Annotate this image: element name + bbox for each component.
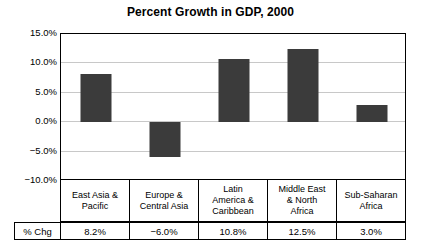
bar-slot: [199, 34, 268, 179]
data-row-label: % Chg: [15, 223, 61, 239]
bar-slot: [130, 34, 199, 179]
y-axis-tick-label: 10.0%: [1, 57, 57, 67]
category-cell: Middle East& NorthAfrica: [268, 180, 337, 221]
bar-slot: [338, 34, 407, 179]
bar: [149, 122, 180, 157]
plot-area: [60, 33, 406, 180]
y-axis-tick-label: 0.0%: [1, 116, 57, 126]
bar: [218, 59, 249, 123]
bar: [80, 74, 111, 122]
category-label: Middle East& NorthAfrica: [278, 184, 325, 217]
bar: [288, 49, 319, 123]
category-cell: Sub-SaharanAfrica: [337, 180, 405, 221]
data-value-cell: 8.2%: [61, 223, 130, 239]
gdp-growth-figure: Percent Growth in GDP, 2000 15.0%10.0%5.…: [0, 0, 421, 252]
data-value-cell: 3.0%: [337, 223, 405, 239]
data-table-row: % Chg 8.2%−6.0%10.8%12.5%3.0%: [14, 222, 406, 240]
category-label: East Asia &Pacific: [72, 190, 118, 212]
category-cell: Europe &Central Asia: [130, 180, 199, 221]
data-value-cell: −6.0%: [130, 223, 199, 239]
bar: [357, 105, 388, 123]
y-axis-tick-label: 15.0%: [1, 28, 57, 38]
y-axis-tick-label: −5.0%: [1, 146, 57, 156]
category-label: Sub-SaharanAfrica: [344, 190, 397, 212]
bar-slot: [61, 34, 130, 179]
category-label: LatinAmerica &Caribbean: [212, 184, 254, 217]
y-axis-tick-label: −10.0%: [1, 175, 57, 185]
data-value-cells: 8.2%−6.0%10.8%12.5%3.0%: [61, 223, 405, 239]
bar-slot: [269, 34, 338, 179]
y-axis: 15.0%10.0%5.0%0.0%−5.0%−10.0%: [0, 33, 57, 180]
data-value-cell: 10.8%: [199, 223, 268, 239]
bar-series: [61, 34, 405, 179]
category-cell: East Asia &Pacific: [61, 180, 130, 221]
category-header-row: East Asia &PacificEurope &Central AsiaLa…: [60, 180, 406, 222]
data-value-cell: 12.5%: [268, 223, 337, 239]
y-axis-tick-label: 5.0%: [1, 87, 57, 97]
category-cell: LatinAmerica &Caribbean: [199, 180, 268, 221]
chart-title: Percent Growth in GDP, 2000: [0, 5, 421, 20]
category-label: Europe &Central Asia: [140, 190, 189, 212]
